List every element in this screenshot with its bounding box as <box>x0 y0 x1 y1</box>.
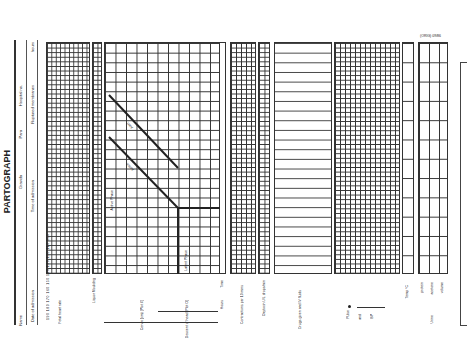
temp-label: Temp °C <box>405 285 409 298</box>
contractions-label: Contractions per 10 mins <box>240 285 244 324</box>
hospital-no-label: Hospital no. <box>18 85 23 106</box>
descent-label: Descent of head [Plot O] <box>185 300 189 338</box>
oxytocin-label: Oxytocin U/L drops/min <box>262 280 266 316</box>
alert-action-lines <box>104 42 220 274</box>
pulse-dot-icon <box>348 305 351 308</box>
urine-row-acetone: acetone <box>430 282 434 294</box>
name-label: Name <box>18 315 23 326</box>
urine-label: Urine <box>430 315 434 323</box>
hours-column <box>218 42 226 274</box>
drugs-label: Drugs given and IV fluids <box>298 290 302 329</box>
header-rule-3 <box>37 40 38 325</box>
cervix-label: Cervix (cm) [Plot X] <box>140 300 144 330</box>
descent-bracket <box>158 311 218 312</box>
fhr-label: Fetal heart rate <box>58 300 62 324</box>
ruptured-membranes-label: Ruptured membranes <box>30 85 35 124</box>
right-border <box>460 62 467 326</box>
date-of-admission-label: Date of admission <box>30 290 35 322</box>
pulse-bp-grid[interactable] <box>334 42 400 274</box>
latent-phase-label: Latent Phase <box>184 250 188 271</box>
temp-grid[interactable] <box>402 42 414 274</box>
form-code: (ORIG) 09/86 <box>420 34 441 38</box>
urine-grid[interactable] <box>418 42 448 274</box>
header-rule-1 <box>14 40 16 325</box>
liquor-moulding-grid[interactable] <box>92 42 102 274</box>
cervix-bracket <box>104 322 218 323</box>
hours-axis-label: Hours <box>220 300 224 309</box>
fetal-heart-rate-grid[interactable] <box>46 42 90 274</box>
time-label: Time <box>220 280 224 288</box>
liquor-label: Liquor Moulding <box>92 278 96 303</box>
oxytocin-grid[interactable] <box>258 42 270 274</box>
header-rule-2 <box>26 40 27 325</box>
urine-row-protein: protein <box>420 282 424 293</box>
active-phase-label: Active Phase <box>110 190 114 210</box>
gravida-label: Gravida <box>18 175 23 189</box>
form-title: PARTOGRAPH <box>2 150 12 213</box>
and-label: and <box>358 314 362 320</box>
bp-range-line <box>357 307 385 308</box>
bp-label: BP <box>370 314 374 319</box>
hours-label: hours <box>30 42 35 52</box>
drugs-given-area[interactable] <box>274 42 332 274</box>
fhr-ticks: 190 180 170 160 150 140 130 120 110 100 <box>46 276 50 320</box>
time-of-admission-label: Time of admission <box>30 180 35 212</box>
contractions-grid[interactable] <box>230 42 256 274</box>
pulse-label: Pulse <box>346 310 350 319</box>
para-label: Para <box>18 130 23 138</box>
urine-row-volume: volume <box>440 282 444 293</box>
